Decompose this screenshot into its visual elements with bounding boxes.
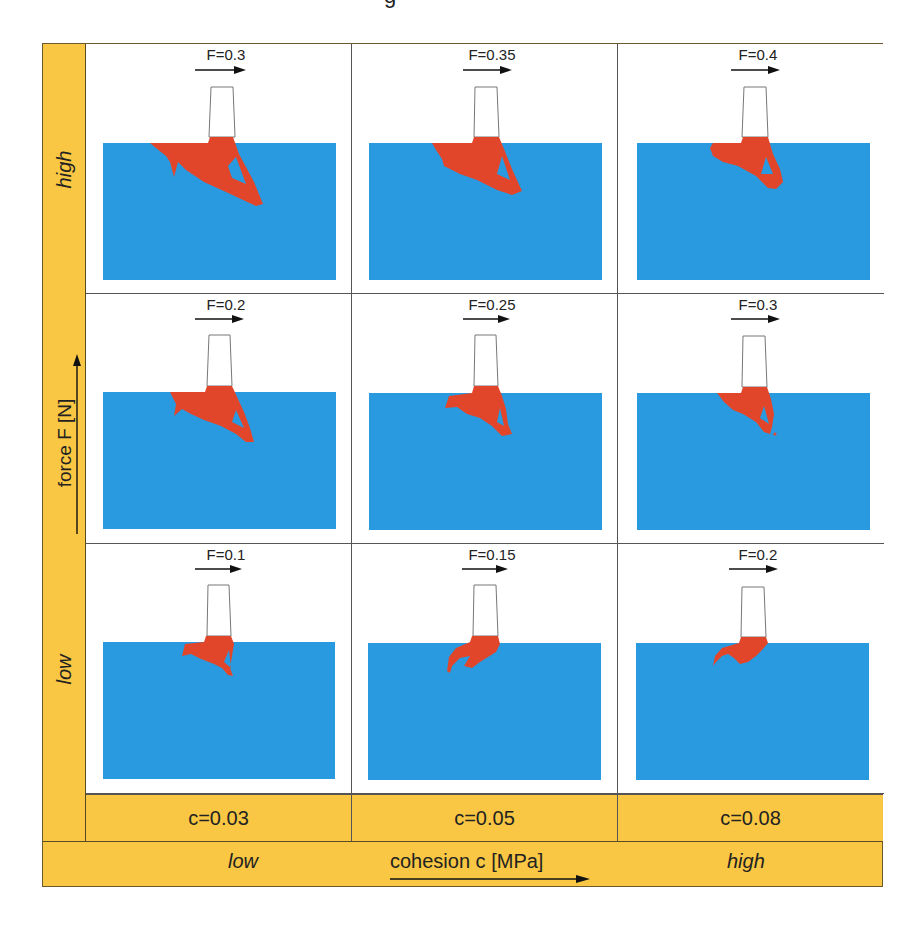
y-low-label: low — [53, 654, 76, 684]
right-arrow-icon — [463, 315, 510, 323]
y-axis-sidebar: high force F [N] low — [43, 44, 86, 841]
right-arrow-icon — [195, 315, 244, 323]
y-high-label: high — [53, 150, 76, 188]
cohesion-label-c0: c=0.03 — [86, 795, 352, 841]
rock-block — [368, 643, 601, 780]
x-high-label: high — [727, 850, 765, 873]
panel-r0-c1: F=0.35 — [352, 44, 618, 294]
cohesion-values-row: c=0.03 c=0.05 c=0.08 — [86, 794, 883, 841]
right-arrow-icon — [390, 874, 590, 884]
x-axis-title: cohesion c [MPa] — [390, 850, 543, 873]
x-axis-band: low cohesion c [MPa] high — [43, 841, 882, 886]
x-low-label: low — [228, 850, 258, 873]
right-arrow-icon — [463, 66, 512, 74]
right-arrow-icon — [462, 565, 508, 573]
fracture-diagram — [352, 544, 618, 794]
panel-r1-c1: F=0.25 — [352, 294, 618, 544]
right-arrow-icon — [731, 66, 780, 74]
panel-r1-c0: F=0.2 — [86, 294, 352, 544]
y-low-label-cell: low — [43, 544, 86, 794]
panel-r2-c0: F=0.1 — [86, 544, 352, 794]
panel-r0-c2: F=0.4 — [618, 44, 884, 294]
cohesion-label-c2: c=0.08 — [618, 795, 883, 841]
y-high-label-cell: high — [43, 44, 86, 294]
fracture-diagram — [618, 44, 884, 294]
up-arrow-icon — [73, 354, 81, 534]
fracture-diagram — [86, 544, 352, 794]
right-arrow-icon — [729, 565, 778, 573]
cohesion-label-c1: c=0.05 — [352, 795, 618, 841]
fracture-diagram — [352, 294, 618, 544]
fracture-diagram — [86, 44, 352, 294]
rock-block — [636, 643, 869, 780]
right-arrow-icon — [195, 565, 242, 573]
y-axis-title-group: force F [N] — [43, 344, 86, 544]
fracture-diagram — [352, 44, 618, 294]
fracture-diagram — [86, 294, 352, 544]
panel-r2-c2: F=0.2 — [618, 544, 884, 794]
fracture-diagram — [618, 294, 884, 544]
figure-frame: high force F [N] low F=0.3 F=0.35 — [42, 43, 883, 887]
title-fragment: g — [384, 0, 402, 6]
fracture-diagram — [618, 544, 884, 794]
panel-r0-c0: F=0.3 — [86, 44, 352, 294]
right-arrow-icon — [195, 66, 246, 74]
panel-r1-c2: F=0.3 — [618, 294, 884, 544]
right-arrow-icon — [731, 315, 780, 323]
simulation-grid: F=0.3 F=0.35 F=0.4 — [86, 44, 883, 794]
panel-r2-c1: F=0.15 — [352, 544, 618, 794]
